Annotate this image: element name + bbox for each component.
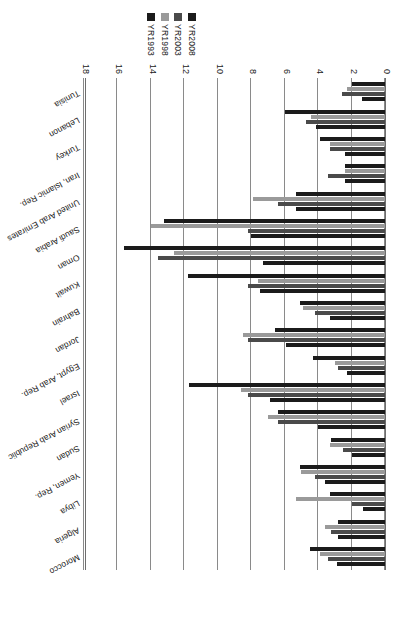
bar — [338, 366, 385, 370]
bar — [316, 125, 385, 129]
bar-group — [86, 242, 385, 269]
bar — [310, 547, 385, 551]
bar — [248, 338, 385, 342]
bar — [311, 115, 385, 119]
bar-group — [86, 515, 385, 542]
bar — [325, 525, 385, 529]
bar — [258, 279, 385, 283]
bar — [253, 197, 385, 201]
bar-group — [86, 187, 385, 214]
bar — [260, 289, 385, 293]
bar — [241, 388, 385, 392]
axis-tick-label: 4 — [315, 69, 324, 74]
category-label: Algeria — [54, 526, 81, 546]
bar-groups — [86, 78, 385, 570]
bar-group — [86, 215, 385, 242]
bar-group — [86, 160, 385, 187]
category-label: Libya — [59, 499, 81, 516]
rotated-chart-figure: MoroccoAlgeriaLibyaYemen, Rep.SudanSyria… — [0, 0, 417, 628]
bar — [300, 301, 385, 305]
bar — [338, 535, 385, 539]
plot-area — [85, 78, 386, 570]
bar — [278, 420, 385, 424]
bar-group — [86, 461, 385, 488]
bar — [189, 383, 385, 387]
legend-entry[interactable]: YR1993 — [147, 13, 156, 56]
axis-tick-label: 12 — [181, 64, 190, 74]
bar — [332, 530, 386, 534]
bar-group — [86, 133, 385, 160]
bar — [248, 284, 385, 288]
bar — [345, 152, 385, 156]
bar — [345, 164, 385, 168]
bar — [285, 110, 385, 114]
legend-entry[interactable]: YR2003 — [174, 13, 183, 56]
bar — [345, 169, 385, 173]
bar-group — [86, 269, 385, 296]
bar — [275, 328, 385, 332]
bar-group — [86, 379, 385, 406]
category-label: Tunisia — [53, 89, 81, 109]
gridline-18 — [83, 78, 84, 570]
bar — [330, 142, 385, 146]
bar — [330, 147, 385, 151]
axis-tick-label: 14 — [148, 64, 157, 74]
bar-group — [86, 406, 385, 433]
bar — [352, 502, 385, 506]
legend-entry[interactable]: YR1998 — [161, 13, 170, 56]
axis-tick-label: 2 — [349, 69, 358, 74]
category-label: Lebanon — [48, 116, 81, 139]
legend-entry[interactable]: YR2008 — [188, 13, 197, 56]
bar — [313, 356, 385, 360]
category-label: Bahrain — [51, 307, 81, 328]
bar — [164, 219, 385, 223]
bar — [296, 207, 385, 211]
axis-tick-label: 16 — [114, 64, 123, 74]
bar — [278, 202, 385, 206]
bar — [343, 448, 385, 452]
bar — [301, 470, 385, 474]
bar — [332, 438, 386, 442]
bar — [251, 234, 385, 238]
bar — [124, 246, 385, 250]
bar — [315, 475, 385, 479]
bar — [158, 256, 385, 260]
bar — [318, 425, 385, 429]
bar — [352, 453, 385, 457]
legend-swatch-icon — [174, 13, 182, 21]
legend-label: YR1998 — [161, 24, 170, 56]
bar — [151, 224, 385, 228]
bar — [300, 465, 385, 469]
bar — [362, 97, 385, 101]
category-label: Saudi Arabia — [34, 225, 81, 255]
legend-swatch-icon — [161, 13, 169, 21]
bar-group — [86, 488, 385, 515]
axis-tick-label: 6 — [282, 69, 291, 74]
bar — [328, 174, 385, 178]
bar-group — [86, 78, 385, 105]
bar — [268, 415, 385, 419]
legend-label: YR2008 — [188, 24, 197, 56]
axis-tick-label: 10 — [215, 64, 224, 74]
bar-group — [86, 351, 385, 378]
axis-tick-label: 8 — [248, 69, 257, 74]
category-label: Sudan — [55, 444, 81, 463]
bar-group — [86, 543, 385, 570]
bar — [278, 410, 385, 414]
bar — [248, 229, 385, 233]
bar — [263, 261, 385, 265]
category-label: Oman — [57, 253, 81, 271]
bar-group — [86, 324, 385, 351]
bar — [320, 552, 385, 556]
bar — [296, 497, 385, 501]
chart-legend: YR1993YR1998YR2003YR2008 — [147, 4, 267, 56]
category-label: Morocco — [48, 553, 81, 576]
legend-swatch-icon — [188, 13, 196, 21]
bar-group — [86, 433, 385, 460]
bar — [347, 87, 385, 91]
bar — [188, 274, 385, 278]
bar — [320, 137, 385, 141]
bar — [338, 520, 385, 524]
category-label: Kuwait — [54, 280, 81, 299]
bar — [286, 343, 385, 347]
